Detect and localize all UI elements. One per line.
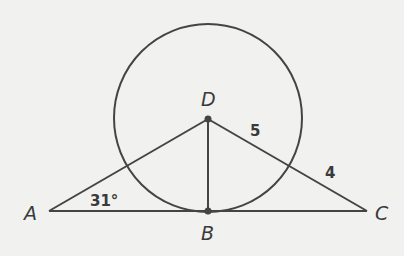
point-d-dot [205, 116, 212, 123]
label-angle-a: 31° [90, 192, 118, 210]
label-d: D [201, 88, 216, 110]
segment-dc [208, 119, 367, 211]
label-c: C [375, 202, 389, 224]
label-a: A [22, 202, 37, 224]
label-dc-inner: 5 [250, 122, 260, 140]
point-b-dot [205, 208, 212, 215]
geometry-diagram: D A B C 31° 5 4 [0, 0, 404, 256]
label-dc-outer: 4 [325, 164, 335, 182]
diagram-canvas: D A B C 31° 5 4 [0, 0, 404, 256]
segment-ad [49, 119, 208, 211]
label-b: B [201, 222, 214, 244]
